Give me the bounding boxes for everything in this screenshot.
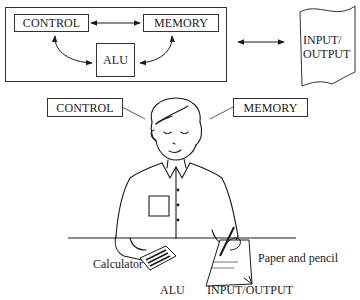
calculator-label: Calculator	[93, 258, 143, 270]
alu-caption: ALU	[160, 284, 185, 296]
io-caption: INPUT/OUTPUT	[207, 284, 293, 296]
person-control-label: CONTROL	[56, 102, 113, 114]
alu-box: ALU	[96, 43, 135, 77]
control-label: CONTROL	[23, 17, 80, 29]
control-box: CONTROL	[14, 14, 89, 32]
io-document-text: INPUT/ OUTPUT	[303, 33, 350, 61]
person-illustration	[115, 98, 238, 260]
memory-leader-line	[210, 107, 233, 119]
paper-pencil-label: Paper and pencil	[258, 252, 338, 264]
control-alu-arrow	[55, 36, 92, 63]
person-memory-box: MEMORY	[233, 98, 308, 117]
person-control-box: CONTROL	[47, 98, 123, 117]
paper-pencil-drawing	[206, 227, 252, 286]
memory-alu-arrow	[140, 36, 172, 63]
memory-label: MEMORY	[154, 17, 208, 29]
memory-box: MEMORY	[143, 14, 219, 32]
control-leader-line	[122, 107, 145, 119]
person-memory-label: MEMORY	[244, 102, 298, 114]
io-line-2: OUTPUT	[303, 47, 350, 61]
io-line-1: INPUT/	[303, 33, 350, 47]
alu-label: ALU	[103, 54, 128, 66]
